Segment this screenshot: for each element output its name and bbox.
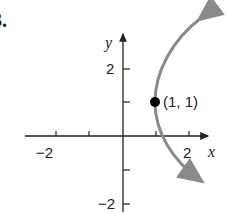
x-tick-label-2: 2 bbox=[183, 144, 191, 161]
point-label: (1, 1) bbox=[163, 93, 198, 110]
y-tick-label-neg2: −2 bbox=[98, 195, 115, 212]
y-tick-label-2: 2 bbox=[106, 60, 114, 77]
x-tick-label-neg2: −2 bbox=[36, 144, 53, 161]
x-axis bbox=[25, 131, 208, 136]
x-axis-label: x bbox=[207, 143, 215, 160]
y-axis-label: y bbox=[103, 34, 113, 52]
graph: −2 2 x 2 −2 y (1, 1) bbox=[0, 0, 226, 213]
point-marker bbox=[150, 97, 160, 107]
y-axis bbox=[123, 34, 130, 212]
